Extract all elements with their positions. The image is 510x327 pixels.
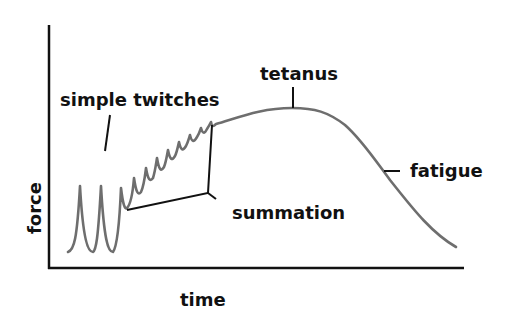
tetanus-label: tetanus [260, 63, 338, 84]
simple-twitches-label: simple twitches [60, 89, 220, 110]
muscle-force-diagram: simple twitches tetanus fatigue summatio… [0, 0, 510, 327]
y-axis-label: force [24, 182, 45, 234]
summation-label: summation [232, 202, 345, 223]
x-axis-label: time [180, 289, 226, 310]
force-curve [68, 108, 456, 252]
fatigue-label: fatigue [410, 160, 483, 181]
summation-pointer-tail [208, 193, 216, 199]
summation-pointer [127, 125, 212, 210]
simple-twitches-pointer [105, 115, 110, 151]
